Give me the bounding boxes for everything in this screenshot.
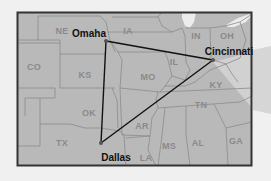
state-label-oh: OH bbox=[220, 31, 234, 41]
state-label-ms: MS bbox=[162, 141, 176, 151]
cincinnati-point bbox=[211, 58, 215, 62]
state-label-co: CO bbox=[27, 62, 41, 72]
city-label-omaha: Omaha bbox=[72, 28, 106, 39]
map: NEIAINOHCOKSMOILKYOKTNARTXLAMSALGAOmahaC… bbox=[0, 0, 271, 181]
state-label-ks: KS bbox=[79, 70, 92, 80]
city-label-dallas: Dallas bbox=[101, 152, 130, 163]
state-label-la: LA bbox=[140, 153, 152, 163]
omaha-point bbox=[104, 39, 108, 43]
city-label-cincinnati: Cincinnati bbox=[205, 46, 253, 57]
state-label-al: AL bbox=[192, 138, 204, 148]
state-label-tn: TN bbox=[195, 100, 207, 110]
state-label-in: IN bbox=[191, 31, 200, 41]
map-graphic bbox=[0, 0, 271, 181]
state-label-ar: AR bbox=[135, 121, 148, 131]
state-label-ok: OK bbox=[82, 108, 96, 118]
state-label-ky: KY bbox=[210, 80, 223, 90]
dallas-point bbox=[99, 141, 103, 145]
state-label-mo: MO bbox=[141, 72, 156, 82]
state-label-ne: NE bbox=[56, 26, 69, 36]
state-label-ga: GA bbox=[229, 136, 243, 146]
state-label-il: IL bbox=[170, 57, 178, 67]
state-label-ia: IA bbox=[123, 26, 132, 36]
callout-outside bbox=[253, 46, 271, 114]
state-label-tx: TX bbox=[56, 138, 68, 148]
